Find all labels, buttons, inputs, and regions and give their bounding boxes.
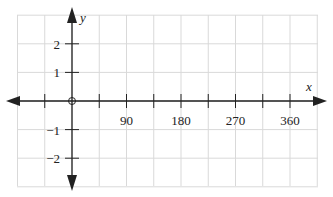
- x-axis-left-arrow-icon: [6, 96, 20, 106]
- y-tick-label: −1: [46, 123, 60, 138]
- y-tick-label: 2: [54, 37, 61, 52]
- x-tick-label: 360: [280, 113, 300, 128]
- coordinate-plane: y x 9018027036021−1−2: [0, 0, 333, 197]
- x-axis-label: x: [305, 79, 312, 94]
- x-tick-label: 270: [226, 113, 246, 128]
- y-axis-label: y: [78, 10, 86, 25]
- x-tick-label: 90: [120, 113, 133, 128]
- y-tick-label: −2: [46, 151, 60, 166]
- y-tick-label: 1: [54, 65, 61, 80]
- x-tick-label: 180: [171, 113, 191, 128]
- y-axis-down-arrow-icon: [67, 175, 77, 191]
- x-axis-right-arrow-icon: [313, 96, 327, 106]
